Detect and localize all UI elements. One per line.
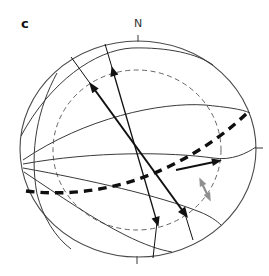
great-circle-arc-bottom xyxy=(24,172,172,252)
arrowhead-east-down-icon xyxy=(152,216,160,227)
great-circle-arc-lower xyxy=(23,168,221,225)
north-label: N xyxy=(134,17,142,30)
short-arrow-shaft xyxy=(176,162,214,170)
stereonet-figure: c N xyxy=(0,0,269,276)
arrowhead-west-down-icon xyxy=(178,207,188,218)
arrowhead-gray-down-icon xyxy=(204,192,211,202)
arrow-west-shaft xyxy=(92,86,185,214)
arrow-east-lower-extension xyxy=(153,222,157,258)
gray-double-arrow xyxy=(199,177,210,201)
arrowhead-gray-up-icon xyxy=(199,177,206,187)
great-circle-arc-top xyxy=(21,48,213,136)
double-arrow-east xyxy=(105,44,160,258)
arrow-east-shaft xyxy=(113,71,157,222)
panel-label: c xyxy=(21,16,29,31)
arrow-west-lower-extension xyxy=(185,214,193,240)
stereonet-canvas: c N xyxy=(0,0,269,276)
arrowhead-east-up-icon xyxy=(110,66,118,77)
inner-dashed-circle xyxy=(53,70,221,230)
